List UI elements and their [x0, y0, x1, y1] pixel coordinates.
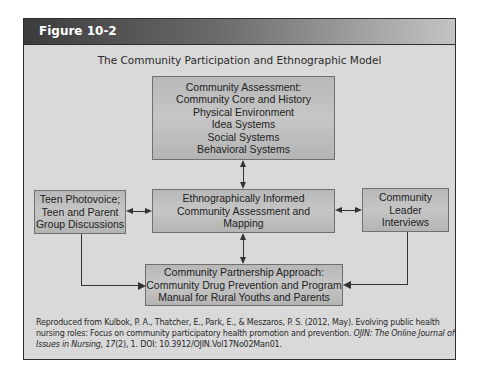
node-line: Physical Environment — [193, 106, 294, 119]
node-ethnographic-mapping: Ethnographically Informed Community Asse… — [152, 189, 335, 233]
node-leader-interviews: Community Leader Interviews — [362, 188, 449, 232]
node-line: Idea Systems — [212, 118, 276, 131]
node-line: Community Assessment and — [177, 205, 310, 218]
node-partnership-approach: Community Partnership Approach: Communit… — [145, 264, 343, 306]
node-line: Behavioral Systems — [197, 143, 290, 156]
node-line: Teen Photovoice; — [40, 193, 121, 206]
figure-label: Figure 10-2 — [39, 24, 117, 38]
figure-title: The Community Participation and Ethnogra… — [24, 54, 455, 66]
node-line: Mapping — [223, 217, 263, 230]
node-line: Leader — [389, 204, 422, 217]
figure-header: Figure 10-2 — [24, 19, 455, 45]
node-line: Community Partnership Approach: — [164, 266, 324, 279]
node-line: Social Systems — [208, 131, 280, 144]
node-community-assessment: Community Assessment: Community Core and… — [152, 76, 335, 160]
node-line: Community Drug Prevention and Program — [146, 279, 342, 292]
node-line: Community — [379, 191, 432, 204]
figure-frame: Figure 10-2 The Community Participation … — [23, 18, 456, 360]
node-line: Teen and Parent — [41, 206, 118, 219]
node-line: Manual for Rural Youths and Parents — [158, 291, 330, 304]
node-line: Group Discussions — [36, 218, 124, 231]
node-line: Community Core and History — [176, 93, 311, 106]
node-line: Interviews — [382, 216, 429, 229]
node-teen-photovoice: Teen Photovoice; Teen and Parent Group D… — [34, 190, 126, 234]
node-line: Community Assessment: — [186, 81, 302, 94]
figure-credit: Reproduced from Kulbok, P. A., Thatcher,… — [36, 317, 456, 350]
node-line: Ethnographically Informed — [183, 192, 305, 205]
credit-doi: (2), 1. DOI: 10.3912/OJIN.Vol17No02Man01… — [115, 340, 282, 349]
